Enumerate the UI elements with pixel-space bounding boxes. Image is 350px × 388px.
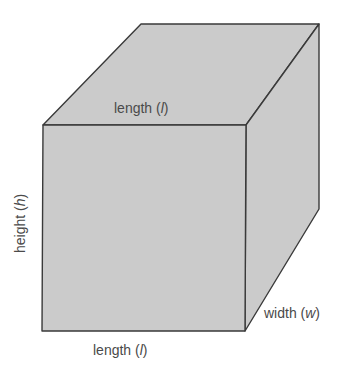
- height-label: height (h): [12, 194, 28, 253]
- bottom-length-label: length (l): [93, 342, 148, 358]
- prism-diagram: length (l) length (l) height (h) width (…: [0, 0, 350, 388]
- front-face: [42, 125, 246, 331]
- width-label: width (w): [263, 305, 320, 321]
- top-length-label: length (l): [114, 100, 169, 116]
